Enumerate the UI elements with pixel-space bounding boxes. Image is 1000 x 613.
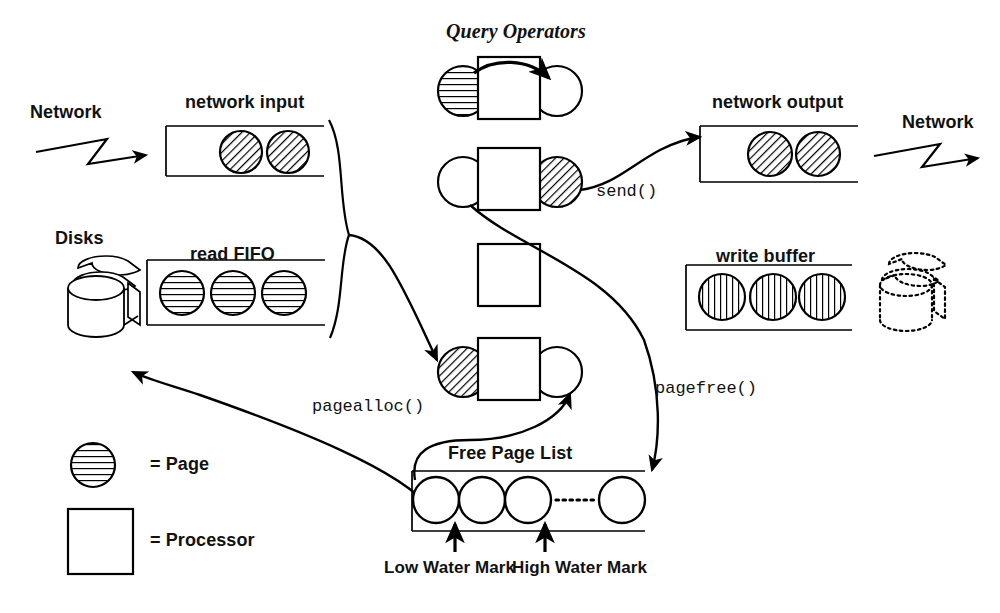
processor-3 — [478, 244, 540, 306]
network-right-label: Network — [902, 112, 974, 133]
freelist-to-processor-arrow — [414, 394, 570, 480]
pagealloc-call-label: pagealloc() — [312, 397, 424, 416]
read-fifo-label: read FIFO — [190, 244, 275, 265]
processor-1 — [438, 57, 582, 119]
processor-box — [478, 148, 540, 210]
network-input-buffer — [166, 126, 324, 176]
network-output-label: network output — [712, 92, 843, 113]
send-call-label: send() — [596, 182, 657, 201]
legend-processor-label: = Processor — [150, 530, 255, 551]
page-icon — [799, 274, 845, 320]
network-left-label: Network — [30, 102, 102, 123]
legend-page-icon — [71, 443, 115, 487]
empty-page-icon — [413, 477, 459, 523]
page-icon — [796, 132, 840, 176]
pagealloc-arrow — [133, 372, 430, 508]
high-water-mark-label: High Water Mark — [512, 558, 647, 578]
empty-page-icon — [459, 477, 505, 523]
page-icon — [699, 274, 745, 320]
page-icon — [267, 131, 309, 173]
empty-page-icon — [599, 477, 645, 523]
read-fifo-buffer — [147, 260, 325, 325]
free-page-list-label: Free Page List — [448, 443, 572, 464]
free-page-list — [412, 471, 645, 552]
diagram-canvas: Query Operators Network network input ne… — [0, 0, 1000, 613]
processor-2 — [438, 148, 582, 210]
disks-dotted-stack-icon — [880, 253, 946, 331]
page-icon — [220, 131, 262, 173]
page-icon — [750, 274, 796, 320]
empty-page-icon — [505, 477, 551, 523]
write-buffer-label: write buffer — [716, 246, 815, 267]
diagram-vector-layer — [0, 0, 1000, 613]
write-buffer — [686, 265, 852, 330]
legend-symbols — [68, 443, 133, 574]
processor-4 — [438, 338, 582, 400]
page-icon — [160, 271, 204, 315]
network-input-label: network input — [185, 92, 304, 113]
diagram-title: Query Operators — [446, 20, 586, 43]
network-input-arrow — [36, 139, 146, 164]
low-water-mark-label: Low Water Mark — [384, 558, 515, 578]
pagefree-call-label: pagefree() — [655, 379, 757, 398]
disks-stack-icon — [68, 256, 140, 337]
network-output-buffer — [700, 126, 858, 182]
page-icon — [262, 271, 306, 315]
network-output-arrow — [874, 144, 978, 167]
input-merge-bracket — [329, 120, 437, 360]
processor-box — [478, 244, 540, 306]
legend-processor-icon — [68, 509, 133, 574]
processor-box — [478, 338, 540, 400]
page-icon — [211, 271, 255, 315]
legend-page-label: = Page — [150, 454, 209, 475]
page-icon — [748, 132, 792, 176]
disks-label: Disks — [55, 228, 104, 249]
